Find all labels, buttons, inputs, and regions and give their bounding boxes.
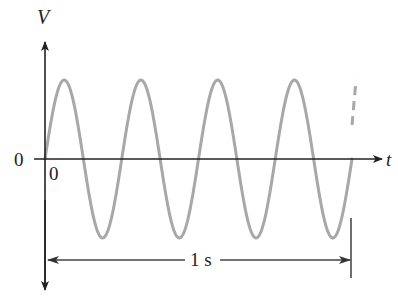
y-origin-label: 0 xyxy=(14,149,24,170)
y-axis-label: V xyxy=(37,6,52,28)
interval-label: 1 s xyxy=(190,249,212,270)
wave-continuation-dash xyxy=(352,80,356,125)
x-axis-label: t xyxy=(386,149,392,170)
x-origin-label: 0 xyxy=(49,163,59,184)
voltage-time-diagram: V t 0 0 1 s xyxy=(0,0,398,300)
